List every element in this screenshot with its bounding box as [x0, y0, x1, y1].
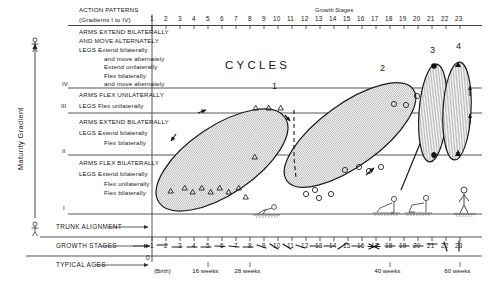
gradient-2-line-0: ARMS EXTEND BILATERALLY	[79, 119, 169, 125]
top-tick-17: 17	[371, 16, 379, 22]
top-tick-11: 11	[287, 16, 294, 22]
gradient-1-line-2: Flex unilaterally	[104, 181, 150, 187]
bottom-tick-14: 14	[329, 243, 337, 249]
stick-figure-crawling	[253, 205, 280, 217]
cycle-4-label: 4	[456, 42, 461, 51]
bottom-tick-4: 4	[192, 243, 196, 249]
age-label-5: 16 weeks	[192, 268, 218, 274]
gradient-2-line-1: LEGS Extend bilaterally	[79, 130, 148, 136]
top-tick-7: 7	[234, 16, 238, 22]
bottom-tick-5: 5	[206, 243, 210, 249]
top-tick-9: 9	[262, 16, 266, 22]
bottom-tick-17: 17	[371, 243, 379, 249]
top-tick-19: 19	[399, 16, 407, 22]
top-tick-18: 18	[385, 16, 393, 22]
cycle-1-label: 1	[272, 82, 277, 91]
bottom-tick-10: 10	[273, 243, 281, 249]
gradient-2-line-2: Flex bilaterally	[104, 140, 146, 146]
maturity-gradient-label: Maturity Gradient	[16, 107, 25, 170]
bottom-tick-3: 3	[178, 243, 182, 249]
gradient-1-roman: I	[63, 205, 65, 211]
figure-root: ACTION PATTERNS (Gradients I to IV) Grow…	[0, 0, 488, 285]
top-tick-21: 21	[427, 16, 435, 22]
gradient-1-line-3: Flex bilaterally	[104, 190, 146, 196]
top-tick-3: 3	[178, 16, 182, 22]
bottom-tick-8: 8	[248, 243, 252, 249]
gradient-4-roman: IV	[62, 81, 68, 87]
top-tick-12: 12	[301, 16, 309, 22]
bottom-tick-6: 6	[220, 243, 224, 249]
top-tick-14: 14	[329, 16, 337, 22]
bottom-axis-ticks	[152, 237, 460, 241]
bottom-tick-22: 22	[441, 243, 449, 249]
top-tick-6: 6	[220, 16, 224, 22]
bottom-tick-2: 2	[164, 243, 168, 249]
top-tick-20: 20	[413, 16, 421, 22]
top-tick-4: 4	[192, 16, 196, 22]
gradient-3-line-1: LEGS Flex unilaterally	[79, 103, 144, 109]
cycle-2-region	[269, 64, 432, 206]
bottom-tick-7: 7	[234, 243, 238, 249]
top-tick-23: 23	[455, 16, 463, 22]
gradient-4-line-1: AND MOVE ALTERNATELY	[79, 38, 159, 44]
gradient-4-line-6: and move alternately	[104, 81, 164, 87]
bottom-tick-12: 12	[301, 243, 309, 249]
row-label-arrow-group	[22, 218, 152, 278]
gradient-4-line-3: and move alternately	[104, 56, 164, 62]
top-tick-13: 13	[315, 16, 323, 22]
top-tick-22: 22	[441, 16, 449, 22]
gradient-3-line-0: ARMS FLEX UNILATERALLY	[79, 92, 164, 98]
action-patterns-header-line1: ACTION PATTERNS	[79, 7, 138, 13]
bottom-tick-11: 11	[287, 243, 294, 249]
age-label-18: 40 weeks	[374, 268, 400, 274]
gradient-4-line-0: ARMS EXTEND BILATERALLY	[79, 29, 169, 35]
bottom-tick-18: 18	[385, 243, 393, 249]
stick-figure-walking	[454, 187, 476, 216]
top-tick-8: 8	[248, 16, 252, 22]
gradient-3-roman: III	[61, 103, 66, 109]
gradient-4-line-5: Flex bilaterally	[104, 73, 146, 79]
gradient-2-roman: II	[62, 148, 65, 154]
chart-title: CYCLES	[225, 60, 290, 72]
bottom-tick-13: 13	[315, 243, 323, 249]
top-tick-2: 2	[164, 16, 168, 22]
age-label-1: (Birth)	[154, 268, 171, 274]
stick-figure-standing	[405, 195, 432, 215]
origin-label: 0	[146, 255, 150, 261]
cycle-1-region	[140, 89, 304, 230]
top-tick-5: 5	[206, 16, 210, 22]
cycle-4-region	[440, 61, 473, 160]
bottom-tick-21: 21	[427, 243, 435, 249]
top-tick-1: 1	[150, 16, 154, 22]
bottom-tick-23: 23	[455, 243, 463, 249]
gradient-1-line-1: LEGS Extend bilaterally	[79, 171, 148, 177]
gradient-1-line-0: ARMS FLEX BILATERALLY	[79, 160, 159, 166]
action-patterns-header-line2: (Gradients I to IV)	[79, 17, 131, 23]
bottom-tick-9: 9	[262, 243, 266, 249]
age-label-8: 28 weeks	[234, 268, 260, 274]
top-tick-16: 16	[357, 16, 365, 22]
bottom-tick-1: 1	[150, 243, 154, 249]
bottom-tick-19: 19	[399, 243, 407, 249]
gradient-4-line-4: Extend unilaterally	[104, 64, 157, 70]
top-tick-10: 10	[273, 16, 281, 22]
top-axis-ticks	[152, 26, 460, 31]
bottom-tick-16: 16	[357, 243, 365, 249]
cycle-3-label: 3	[430, 46, 435, 55]
age-label-23: 60 weeks	[444, 268, 470, 274]
top-tick-15: 15	[343, 16, 351, 22]
bottom-tick-15: 15	[343, 243, 351, 249]
stick-figure-creeping	[373, 196, 400, 215]
bottom-tick-20: 20	[413, 243, 421, 249]
gradient-4-line-2: LEGS Extend bilaterally	[79, 47, 148, 53]
cycle-2-label: 2	[380, 64, 385, 73]
growth-stages-axis-title: Growth Stages	[315, 8, 353, 14]
